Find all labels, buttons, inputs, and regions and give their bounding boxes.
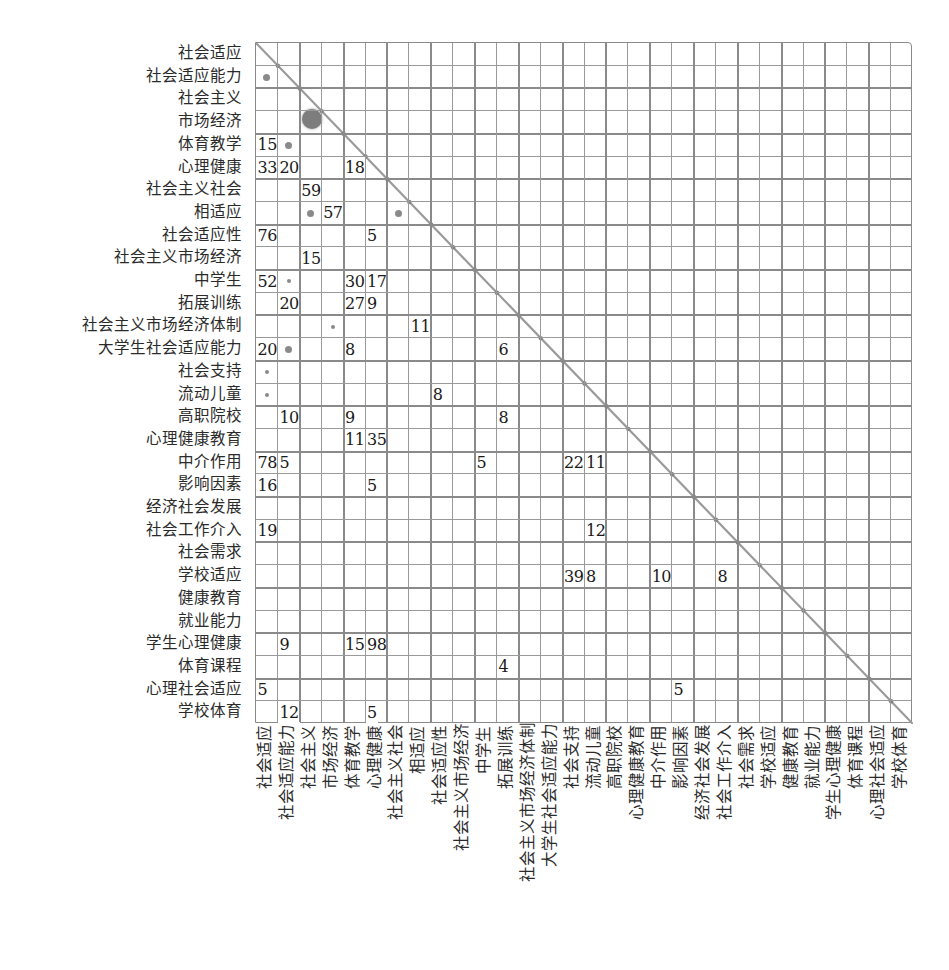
grid-hline bbox=[256, 678, 911, 680]
co-occurrence-matrix-chart: 社会适应社会适应能力社会主义市场经济体育教学心理健康社会主义社会相适应社会适应性… bbox=[0, 0, 949, 970]
column-label: 学校适应 bbox=[759, 725, 781, 789]
cell-value: 4 bbox=[497, 656, 509, 678]
column-label: 市场经济 bbox=[321, 725, 343, 789]
column-label: 就业能力 bbox=[803, 725, 825, 789]
column-label: 高职院校 bbox=[605, 725, 627, 789]
grid-vline bbox=[671, 43, 672, 722]
grid-vline bbox=[605, 43, 607, 722]
cell-value: 9 bbox=[366, 293, 378, 315]
column-label: 社会主义市场经济体制 bbox=[518, 722, 540, 882]
row-label: 大学生社会适应能力 bbox=[98, 337, 242, 360]
column-label: 流动儿童 bbox=[584, 725, 606, 789]
cell-value: 5 bbox=[476, 452, 488, 474]
cell-value: 5 bbox=[673, 679, 685, 701]
grid-vline bbox=[693, 43, 695, 722]
cell-value: 11 bbox=[344, 429, 365, 451]
cell-value: 10 bbox=[651, 566, 672, 588]
column-label: 体育教学 bbox=[343, 725, 365, 789]
grid-hline bbox=[256, 383, 911, 384]
row-label: 体育教学 bbox=[178, 133, 242, 156]
cell-value: 8 bbox=[432, 384, 444, 406]
column-label: 社会支持 bbox=[562, 725, 584, 789]
cell-value: 76 bbox=[257, 225, 278, 247]
grid-hline bbox=[256, 473, 911, 474]
grid-hline bbox=[256, 610, 911, 611]
grid-hline bbox=[256, 655, 911, 656]
grid-vline bbox=[803, 43, 804, 722]
cell-value: 19 bbox=[257, 520, 278, 542]
row-label: 体育课程 bbox=[178, 655, 242, 678]
cell-value: 9 bbox=[278, 634, 290, 656]
grid-hline bbox=[256, 496, 911, 498]
column-label: 体育课程 bbox=[846, 725, 868, 789]
row-label: 学生心理健康 bbox=[146, 632, 242, 655]
cooccurrence-dot bbox=[307, 210, 314, 217]
cell-value: 16 bbox=[257, 475, 278, 497]
row-label: 社会需求 bbox=[178, 541, 242, 564]
cooccurrence-dot bbox=[265, 393, 269, 397]
grid-hline bbox=[256, 405, 911, 407]
row-label: 拓展训练 bbox=[178, 292, 242, 315]
grid-hline bbox=[256, 700, 911, 701]
grid-hline bbox=[256, 587, 911, 589]
row-label: 心理健康教育 bbox=[146, 428, 242, 451]
row-label: 社会主义市场经济体制 bbox=[82, 314, 242, 337]
column-label: 拓展训练 bbox=[496, 725, 518, 789]
cell-value: 11 bbox=[585, 452, 606, 474]
grid-vline bbox=[868, 43, 870, 722]
grid-vline bbox=[649, 43, 651, 722]
grid-vline bbox=[890, 43, 891, 722]
row-label: 社会适应能力 bbox=[146, 65, 242, 88]
cell-value: 15 bbox=[344, 634, 365, 656]
row-label: 市场经济 bbox=[178, 110, 242, 133]
row-label: 社会主义市场经济 bbox=[114, 246, 242, 269]
column-label: 心理健康 bbox=[365, 725, 387, 789]
cell-value: 20 bbox=[278, 157, 299, 179]
cooccurrence-dot bbox=[285, 142, 292, 149]
cell-value: 33 bbox=[257, 157, 278, 179]
diagonal-line bbox=[256, 43, 913, 724]
column-label: 相适应 bbox=[408, 726, 430, 774]
cell-value: 17 bbox=[366, 271, 387, 293]
column-label: 社会适应 bbox=[255, 725, 277, 789]
column-label: 社会主义 bbox=[299, 725, 321, 789]
column-label: 经济社会发展 bbox=[693, 724, 715, 820]
column-label: 心理健康教育 bbox=[627, 724, 649, 820]
grid-hline bbox=[256, 519, 911, 520]
column-label: 大学生社会适应能力 bbox=[540, 723, 562, 867]
grid-vline bbox=[846, 43, 847, 722]
grid-hline bbox=[256, 428, 911, 429]
row-label: 社会支持 bbox=[178, 360, 242, 383]
column-label: 社会主义社会 bbox=[386, 724, 408, 820]
grid-vline bbox=[715, 43, 716, 722]
column-label: 心理社会适应 bbox=[868, 724, 890, 820]
row-label: 社会主义社会 bbox=[146, 178, 242, 201]
row-label: 流动儿童 bbox=[178, 383, 242, 406]
grid-vline bbox=[781, 43, 783, 722]
row-label: 就业能力 bbox=[178, 610, 242, 633]
cell-value: 10 bbox=[278, 407, 299, 429]
cell-value: 52 bbox=[257, 271, 278, 293]
cell-value: 9 bbox=[344, 407, 356, 429]
cell-value: 5 bbox=[366, 702, 378, 724]
cell-value: 20 bbox=[278, 293, 299, 315]
cell-value: 59 bbox=[300, 180, 321, 202]
column-label: 社会适应性 bbox=[430, 725, 452, 805]
grid-vline bbox=[737, 43, 739, 722]
cell-value: 5 bbox=[366, 475, 378, 497]
row-label: 学校适应 bbox=[178, 564, 242, 587]
cell-value: 15 bbox=[257, 134, 278, 156]
column-label: 中介作用 bbox=[649, 725, 671, 789]
grid-hline bbox=[256, 451, 911, 453]
cell-value: 8 bbox=[585, 566, 597, 588]
column-label: 学生心理健康 bbox=[824, 724, 846, 820]
row-label: 心理健康 bbox=[178, 156, 242, 179]
matrix-grid: 1533201859577651552301720279112086810981… bbox=[255, 42, 912, 723]
cell-value: 98 bbox=[366, 634, 387, 656]
grid-vline bbox=[759, 43, 760, 722]
cell-value: 6 bbox=[497, 339, 509, 361]
row-label: 社会工作介入 bbox=[146, 519, 242, 542]
cell-value: 30 bbox=[344, 271, 365, 293]
row-label: 学校体育 bbox=[178, 700, 242, 723]
cell-value: 12 bbox=[585, 520, 606, 542]
